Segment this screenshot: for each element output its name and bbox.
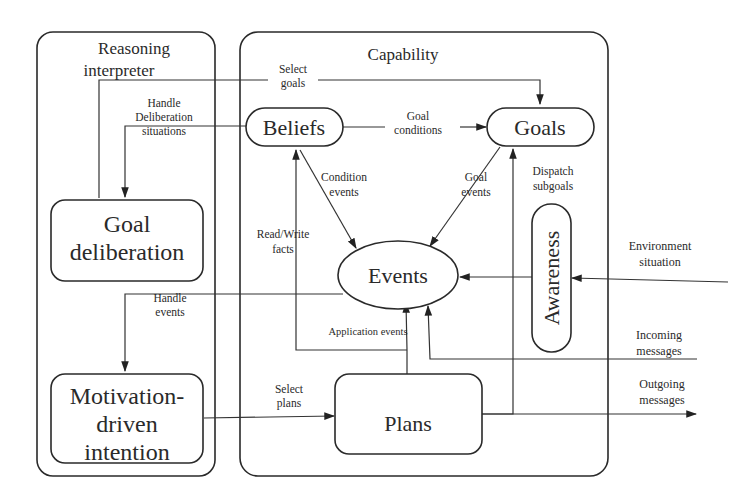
- incoming-messages-label-2: messages: [636, 344, 682, 358]
- goal-deliberation-node[interactable]: Goal deliberation: [51, 200, 203, 281]
- edge-environment-situation: Environment situation: [460, 239, 728, 282]
- environment-situation-label-2: situation: [639, 255, 680, 269]
- goal-deliberation-label-1: Goal: [104, 211, 151, 237]
- dispatch-subgoals-label-1: Dispatch: [533, 165, 574, 178]
- edge-handle-deliberation: Handle Deliberation situations: [125, 97, 246, 197]
- condition-events-label-2: events: [329, 186, 359, 198]
- outgoing-messages-label-1: Outgoing: [639, 377, 684, 391]
- goal-deliberation-label-2: deliberation: [70, 239, 185, 265]
- beliefs-label: Beliefs: [263, 115, 325, 140]
- edge-condition-events: Condition events: [300, 150, 367, 248]
- edge-goal-conditions: Goal conditions: [343, 110, 486, 136]
- plans-label: Plans: [384, 411, 432, 436]
- goal-conditions-label-1: Goal: [407, 110, 429, 122]
- select-goals-label-2: goals: [281, 77, 306, 90]
- awareness-label: Awareness: [539, 231, 564, 326]
- agent-architecture-diagram: Reasoning interpreter Capability Select …: [0, 0, 731, 499]
- edge-handle-events: Handle events: [125, 292, 343, 371]
- select-plans-label-1: Select: [275, 383, 304, 395]
- goal-events-label-1: Goal: [465, 171, 487, 183]
- condition-events-label-1: Condition: [321, 171, 367, 183]
- reasoning-interpreter-title-1: Reasoning: [98, 39, 170, 58]
- select-goals-label-1: Select: [279, 63, 308, 75]
- handle-deliberation-label-2: Deliberation: [135, 111, 193, 123]
- goal-conditions-label-2: conditions: [394, 124, 442, 136]
- motivation-driven-intention-node[interactable]: Motivation- driven intention: [51, 374, 203, 465]
- beliefs-node[interactable]: Beliefs: [246, 108, 343, 146]
- edge-goal-events: Goal events: [430, 147, 500, 246]
- edge-select-plans: Select plans: [204, 383, 334, 418]
- awareness-node[interactable]: Awareness: [532, 204, 571, 352]
- select-plans-label-2: plans: [277, 397, 302, 410]
- environment-situation-label-1: Environment: [629, 239, 692, 253]
- capability-title: Capability: [368, 45, 439, 64]
- plans-node[interactable]: Plans: [335, 374, 482, 454]
- outgoing-messages-label-2: messages: [639, 393, 685, 407]
- events-label: Events: [368, 263, 428, 288]
- read-write-facts-label-1: Read/Write: [257, 228, 310, 240]
- motivation-label-3: intention: [84, 439, 169, 465]
- read-write-facts-label-2: facts: [272, 243, 294, 255]
- handle-events-label-1: Handle: [153, 292, 186, 304]
- motivation-label-2: driven: [96, 411, 157, 437]
- application-events-label: Application events: [328, 326, 407, 337]
- events-node[interactable]: Events: [338, 241, 458, 309]
- edge-application-events: Application events: [328, 303, 407, 375]
- handle-deliberation-label-1: Handle: [147, 97, 180, 109]
- goals-node[interactable]: Goals: [487, 108, 594, 146]
- edge-outgoing-messages: Outgoing messages: [482, 377, 696, 414]
- handle-events-label-2: events: [155, 306, 185, 318]
- motivation-label-1: Motivation-: [70, 383, 185, 409]
- reasoning-interpreter-title-2: interpreter: [84, 61, 155, 80]
- goals-label: Goals: [514, 115, 565, 140]
- goal-events-label-2: events: [461, 186, 491, 198]
- dispatch-subgoals-label-2: subgoals: [533, 180, 574, 193]
- handle-deliberation-label-3: situations: [142, 125, 187, 137]
- incoming-messages-label-1: Incoming: [636, 328, 682, 342]
